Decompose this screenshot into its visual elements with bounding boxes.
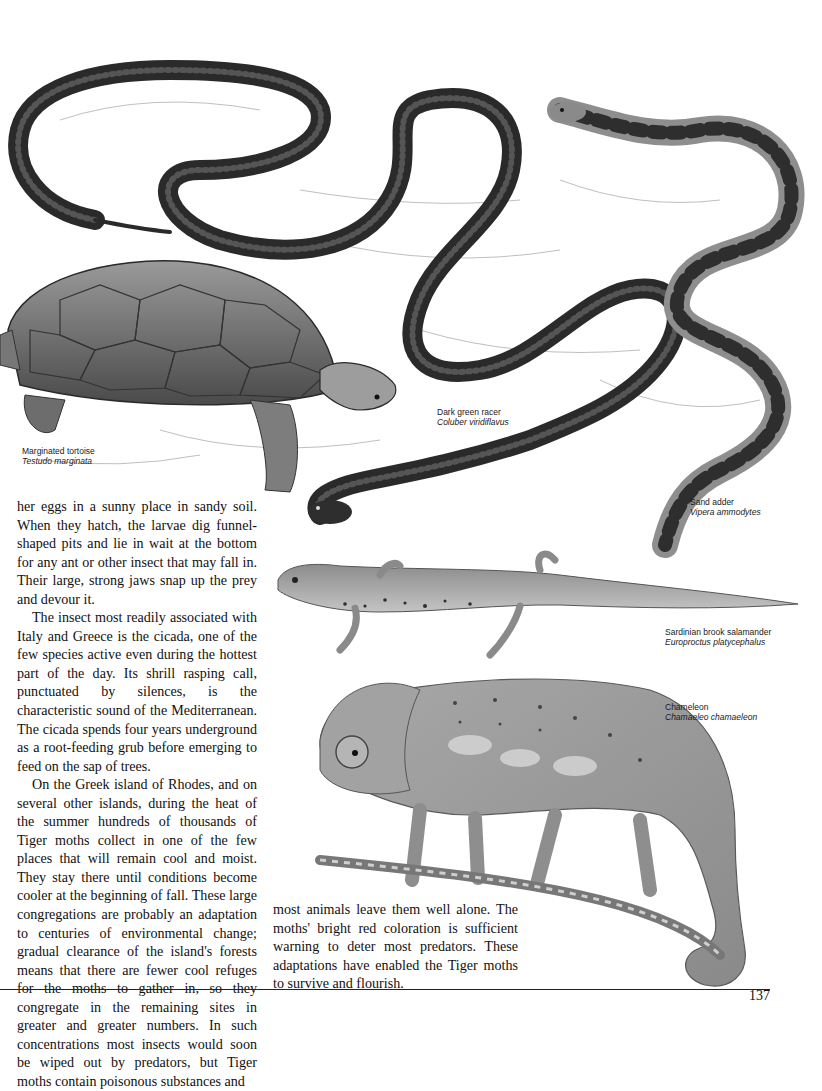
sand-adder-illustration	[550, 102, 792, 545]
caption-common-name: Marginated tortoise	[22, 446, 95, 456]
caption-common-name: Sand adder	[690, 497, 761, 507]
caption-dark-green-racer: Dark green racer Coluber viridiflavus	[437, 407, 509, 427]
caption-sardinian-brook-salamander: Sardinian brook salamander Europroctus p…	[665, 627, 771, 647]
body-text-right-column: most animals leave them well alone. The …	[273, 900, 518, 993]
caption-common-name: Chameleon	[665, 702, 757, 712]
caption-scientific-name: Europroctus platycephalus	[665, 637, 771, 647]
body-paragraph: The insect most readily associated with …	[17, 608, 257, 775]
caption-scientific-name: Vipera ammodytes	[690, 507, 761, 517]
footer-rule	[0, 989, 770, 990]
caption-common-name: Sardinian brook salamander	[665, 627, 771, 637]
caption-sand-adder: Sand adder Vipera ammodytes	[690, 497, 761, 517]
caption-chameleon: Chameleon Chamaeleo chamaeleon	[665, 702, 757, 722]
body-paragraph: her eggs in a sunny place in sandy soil.…	[17, 497, 257, 608]
body-text-left-column: her eggs in a sunny place in sandy soil.…	[17, 497, 257, 1091]
caption-scientific-name: Coluber viridiflavus	[437, 417, 509, 427]
caption-scientific-name: Chamaeleo chamaeleon	[665, 712, 757, 722]
body-paragraph: On the Greek island of Rhodes, and on se…	[17, 775, 257, 1090]
caption-scientific-name: Testudo marginata	[22, 456, 95, 466]
caption-marginated-tortoise: Marginated tortoise Testudo marginata	[22, 446, 95, 466]
body-paragraph: most animals leave them well alone. The …	[273, 900, 518, 993]
page-number: 137	[749, 988, 770, 1004]
caption-common-name: Dark green racer	[437, 407, 509, 417]
